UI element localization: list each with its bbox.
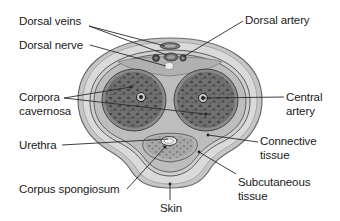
label-urethra: Urethra [19,139,57,152]
label-subcutaneous-tissue-line2: tissue [238,190,267,203]
label-central-artery-line1: Central [286,91,322,104]
label-connective-tissue-line1: Connective [260,135,317,148]
label-central-artery-line2: artery [286,105,315,118]
label-dorsal-nerve: Dorsal nerve [19,39,83,52]
label-corpus-spongiosum: Corpus spongiosum [19,183,120,196]
label-dorsal-veins: Dorsal veins [19,15,81,28]
label-skin: Skin [160,202,182,215]
label-corpora-cavernosa-line2: cavernosa [19,105,71,118]
label-connective-tissue-line2: tissue [260,149,289,162]
label-subcutaneous-tissue-line1: Subcutaneous [238,176,310,189]
penis-cross-section-diagram: Dorsal veins Dorsal nerve Dorsal artery … [0,0,340,221]
label-corpora-cavernosa-line1: Corpora [19,91,60,104]
label-dorsal-artery: Dorsal artery [245,14,310,27]
